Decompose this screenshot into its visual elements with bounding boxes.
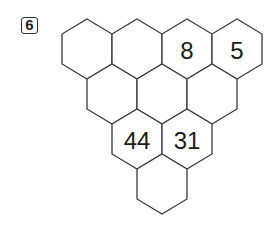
hex-value: 5 [230,37,243,64]
hex-value: 31 [174,127,201,154]
hex-value: 8 [180,37,193,64]
hex-value: 44 [124,127,151,154]
hexagon-pyramid: 854431 [0,0,277,225]
